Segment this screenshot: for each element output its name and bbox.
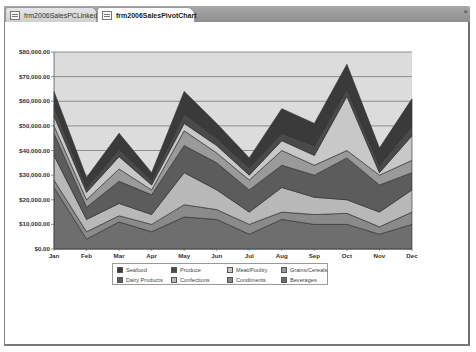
y-tick-label: $20,000.00 (19, 196, 51, 203)
x-tick-label: Jul (245, 252, 254, 259)
y-tick-label: $70,000.00 (19, 73, 51, 80)
x-tick-label: Jan (49, 252, 60, 259)
x-tick-label: Apr (146, 252, 157, 259)
legend-label: Produce (180, 267, 201, 273)
legend-swatch-icon (227, 267, 233, 273)
y-tick-label: $60,000.00 (19, 97, 51, 104)
legend-swatch-icon (117, 277, 123, 283)
legend-swatch-icon (281, 277, 287, 283)
x-tick-label: Dec (406, 252, 418, 259)
y-tick-label: $80,000.00 (19, 48, 51, 55)
legend-label: Confections (180, 277, 210, 283)
x-tick-label: Oct (342, 252, 352, 259)
legend-item-condiments[interactable]: Condiments (227, 275, 281, 285)
legend-label: Meat/Poultry (236, 267, 267, 273)
legend-swatch-icon (171, 277, 177, 283)
y-tick-label: $40,000.00 (19, 147, 51, 154)
legend-label: Condiments (236, 277, 266, 283)
legend-swatch-icon (281, 267, 287, 273)
x-tick-label: Sep (309, 252, 321, 259)
legend-swatch-icon (171, 267, 177, 273)
x-tick-label: Feb (81, 252, 92, 259)
x-tick-label: Mar (114, 252, 126, 259)
legend-label: Seafood (126, 267, 147, 273)
legend-swatch-icon (117, 267, 123, 273)
x-tick-label: Nov (374, 252, 386, 259)
legend-swatch-icon (227, 277, 233, 283)
legend-item-produce[interactable]: Produce (171, 265, 227, 275)
x-tick-label: Aug (276, 252, 288, 259)
legend-item-beverages[interactable]: Beverages (281, 275, 331, 285)
legend-label: Beverages (290, 277, 317, 283)
legend-label: Grains/Cereals (290, 267, 327, 273)
legend-item-grains-cereals[interactable]: Grains/Cereals (281, 265, 331, 275)
legend-item-meat-poultry[interactable]: Meat/Poultry (227, 265, 281, 275)
legend-label: Dairy Products (126, 277, 163, 283)
chart-legend[interactable]: SeafoodProduceMeat/PoultryGrains/Cereals… (112, 263, 328, 285)
y-tick-label: $50,000.00 (19, 122, 51, 129)
y-tick-label: $30,000.00 (19, 171, 51, 178)
legend-item-dairy-products[interactable]: Dairy Products (117, 275, 171, 285)
x-tick-label: Jun (211, 252, 222, 259)
y-tick-label: $10,000.00 (19, 220, 51, 227)
x-tick-label: May (178, 252, 191, 259)
legend-item-confections[interactable]: Confections (171, 275, 227, 285)
legend-item-seafood[interactable]: Seafood (117, 265, 171, 275)
y-tick-label: $0.00 (35, 245, 51, 252)
pivot-chart[interactable]: $80,000.00$70,000.00$60,000.00$50,000.00… (0, 0, 476, 262)
